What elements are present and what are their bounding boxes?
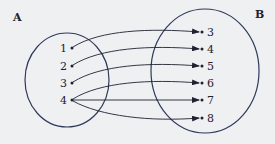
b-dot-5 [201,65,204,68]
set-b-elements: 3 4 5 6 7 8 [201,26,215,125]
set-b-ellipse [151,9,259,133]
set-a-ellipse [25,33,109,127]
b-dot-4 [201,48,204,51]
b-element-6: 6 [207,77,214,90]
arrow-4-to-6 [73,81,199,99]
a-element-1: 1 [60,42,67,55]
b-dot-8 [201,117,204,120]
b-element-3: 3 [207,26,214,39]
b-element-5: 5 [207,60,214,73]
b-element-7: 7 [207,94,214,107]
set-b-label: B [255,8,264,21]
mapping-arrows [73,30,199,119]
a-element-4: 4 [60,94,67,107]
a-element-2: 2 [60,60,67,73]
b-dot-7 [201,99,204,102]
a-element-3: 3 [60,77,67,90]
b-element-4: 4 [207,43,214,56]
arrow-4-to-8 [73,101,199,119]
b-element-8: 8 [207,112,214,125]
b-dot-6 [201,82,204,85]
set-a-label: A [12,11,22,24]
arrow-1-to-3 [73,30,199,47]
mapping-diagram: A B 1 2 3 4 3 4 5 6 7 8 [0,0,275,144]
arrow-3-to-5 [73,64,199,82]
arrow-2-to-4 [73,47,199,65]
b-dot-3 [201,31,204,34]
set-a-elements: 1 2 3 4 [60,42,74,107]
